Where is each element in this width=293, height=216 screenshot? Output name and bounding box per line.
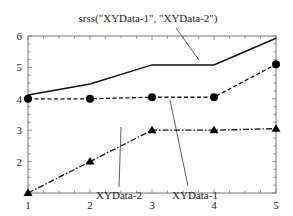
annotation-xydata2-leader (119, 127, 121, 187)
annotation-srss-leader (176, 28, 199, 60)
triangle-marker (148, 126, 157, 134)
y-tick-label: 4 (17, 93, 23, 105)
line-chart: 1234523456 srss("XYData-1", "XYData-2")X… (0, 0, 293, 216)
x-tick-label: 2 (87, 199, 93, 211)
annotation-xydata1-label: XYData-1 (172, 189, 218, 201)
plot-series (24, 38, 281, 196)
annotation-xydata2-label: XYData-2 (96, 189, 142, 201)
circle-marker (148, 93, 156, 101)
x-tick-label: 5 (273, 199, 279, 211)
triangle-marker (272, 124, 281, 132)
series-line (28, 129, 276, 193)
annotation-srss-label: srss("XYData-1", "XYData-2") (79, 12, 218, 25)
x-tick-label: 1 (25, 199, 31, 211)
circle-marker (86, 95, 94, 103)
x-tick-label: 3 (149, 199, 155, 211)
y-tick-label: 2 (17, 156, 23, 168)
triangle-marker (86, 157, 95, 165)
triangle-marker (210, 126, 219, 134)
circle-marker (272, 60, 280, 68)
plot-annotations: srss("XYData-1", "XYData-2")XYData-2XYDa… (79, 12, 218, 201)
triangle-marker (24, 189, 33, 197)
annotation-xydata1-leader (170, 100, 188, 186)
plot-frame (28, 36, 276, 193)
y-tick-label: 5 (17, 61, 23, 73)
circle-marker (210, 93, 218, 101)
series-line (28, 38, 276, 95)
circle-marker (24, 95, 32, 103)
plot-axes: 1234523456 (17, 30, 280, 211)
y-tick-label: 3 (17, 124, 23, 136)
y-tick-label: 6 (17, 30, 23, 42)
